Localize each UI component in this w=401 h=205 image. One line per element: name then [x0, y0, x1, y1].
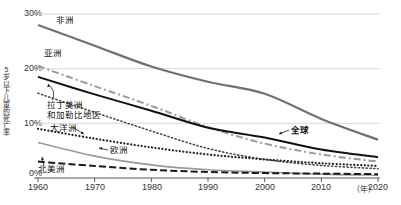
series-line-5 — [38, 142, 378, 175]
series-label-north-america: 北美洲 — [38, 165, 65, 175]
series-label-europe: 欧洲 — [110, 146, 128, 156]
series-line-3 — [38, 93, 378, 168]
series-label-global: 全球 — [291, 126, 309, 136]
leader-europe-head — [99, 147, 102, 150]
series-label-latam-line2: 和加勒比地区 — [47, 111, 101, 121]
series-label-africa: 非洲 — [56, 16, 74, 26]
leader-northamerica-head — [41, 157, 44, 160]
series-label-asia: 亚洲 — [44, 49, 62, 59]
series-label-oceania: 大洋洲 — [50, 124, 77, 134]
child-mortality-line-chart: 5岁以下儿童的死亡率 30% 20% 10% 0% 1960 1970 1980… — [0, 0, 401, 205]
series-line-0 — [38, 25, 378, 140]
series-line-4 — [38, 129, 378, 166]
